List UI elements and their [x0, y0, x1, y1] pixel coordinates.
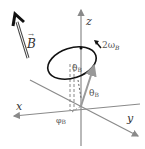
theta-label: θB [89, 88, 99, 98]
y-axis-label: y [126, 112, 134, 125]
precession-diagram: z x y B → 2ωB θB θB φB [0, 0, 145, 149]
x-axis-label: x [16, 100, 23, 113]
z-axis-label: z [85, 15, 92, 28]
x-axis [14, 104, 140, 116]
orbit-top-point [80, 47, 83, 50]
precession-rate-label: 2ωB [102, 40, 120, 51]
y-axis [30, 80, 138, 136]
projection-dashed-3 [72, 106, 81, 112]
field-label: B [26, 37, 36, 51]
field-vector-mark: → [28, 31, 34, 39]
phi-label: φB [56, 116, 67, 125]
